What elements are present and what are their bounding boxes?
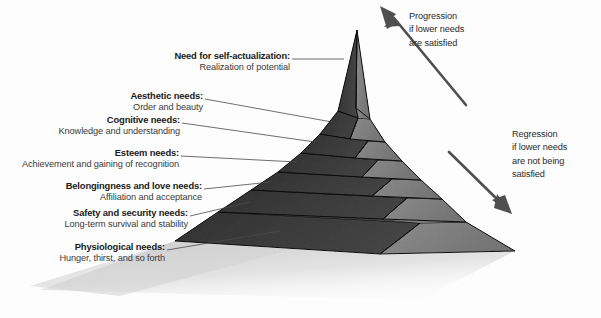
- tier-desc-safety: Long-term survival and stability: [65, 219, 188, 230]
- tier-desc-cognitive: Knowledge and understanding: [59, 126, 180, 137]
- tier-title-self-actualization: Need for self-actualization:: [174, 50, 290, 61]
- annotation-regression-line-3: are not being: [512, 155, 567, 168]
- tier-label-esteem: Esteem needs: Achievement and gaining of…: [22, 147, 179, 170]
- tier-title-cognitive: Cognitive needs:: [59, 114, 180, 125]
- tier-desc-esteem: Achievement and gaining of recognition: [22, 159, 179, 170]
- tier-desc-self-actualization: Realization of potential: [174, 62, 290, 73]
- tier-title-safety: Safety and security needs:: [65, 207, 188, 218]
- tier-label-belongingness: Belongingness and love needs: Affiliatio…: [66, 180, 202, 203]
- regression-arrow: [449, 152, 512, 214]
- tier-title-aesthetic: Aesthetic needs:: [130, 90, 203, 101]
- tier-label-self-actualization: Need for self-actualization: Realization…: [174, 50, 290, 73]
- tier-desc-aesthetic: Order and beauty: [130, 102, 203, 113]
- tier-title-esteem: Esteem needs:: [22, 147, 179, 158]
- tier-desc-physiological: Hunger, thirst, and so forth: [60, 253, 165, 264]
- annotation-progression-line-2: if lower needs: [409, 23, 464, 36]
- annotation-progression-line-1: Progression: [409, 10, 464, 23]
- tier-title-belongingness: Belongingness and love needs:: [66, 180, 202, 191]
- annotation-progression: Progression if lower needs are satisfied: [409, 10, 464, 50]
- annotation-regression: Regression if lower needs are not being …: [512, 128, 567, 181]
- tier-label-aesthetic: Aesthetic needs: Order and beauty: [130, 90, 203, 113]
- tier-label-physiological: Physiological needs: Hunger, thirst, and…: [60, 241, 165, 264]
- annotation-progression-line-3: are satisfied: [409, 37, 464, 50]
- pyramid-tier-self-actualization: [338, 30, 370, 119]
- tier-label-safety: Safety and security needs: Long-term sur…: [65, 207, 188, 230]
- leader-line-esteem: [181, 156, 297, 162]
- tier-title-physiological: Physiological needs:: [60, 241, 165, 252]
- annotation-regression-line-1: Regression: [512, 128, 567, 141]
- tier-desc-belongingness: Affiliation and acceptance: [66, 192, 202, 203]
- annotation-regression-line-2: if lower needs: [512, 141, 567, 154]
- annotation-regression-line-4: satisfied: [512, 168, 567, 181]
- leader-line-cognitive: [182, 123, 315, 142]
- tier-label-cognitive: Cognitive needs: Knowledge and understan…: [59, 114, 180, 137]
- leader-line-aesthetic: [205, 99, 332, 122]
- maslow-pyramid-diagram: Need for self-actualization: Realization…: [0, 0, 601, 318]
